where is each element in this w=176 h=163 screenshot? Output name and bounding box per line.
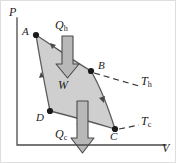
point-label-d: D [36, 112, 44, 123]
point-label-a: A [22, 26, 29, 37]
heat-out-subscript: c [64, 133, 68, 142]
isotherm-hot-subscript: h [148, 80, 152, 89]
point-a-dot [33, 32, 39, 38]
work-label: W [58, 79, 68, 91]
point-label-c: C [110, 131, 117, 142]
heat-in-label-qh: Qh [55, 19, 68, 33]
isotherm-cold-symbol: T [141, 114, 148, 128]
x-axis-label: V [162, 142, 169, 154]
point-d-dot [47, 108, 53, 114]
point-b-dot [88, 68, 94, 74]
heat-in-subscript: h [64, 24, 68, 33]
isotherm-cold-subscript: c [148, 120, 152, 129]
isotherm-cold-label: Tc [141, 115, 151, 129]
isotherm-hot-label: Th [141, 75, 152, 89]
point-label-b: B [98, 60, 105, 71]
isotherm-hot-symbol: T [141, 74, 148, 88]
heat-out-symbol: Q [55, 127, 64, 141]
heat-in-symbol: Q [55, 18, 64, 32]
y-axis-label: P [9, 6, 16, 18]
heat-out-label-qc: Qc [55, 128, 67, 142]
pv-diagram-figure: P V A B C D Qh Qc W Th Tc [0, 0, 176, 163]
